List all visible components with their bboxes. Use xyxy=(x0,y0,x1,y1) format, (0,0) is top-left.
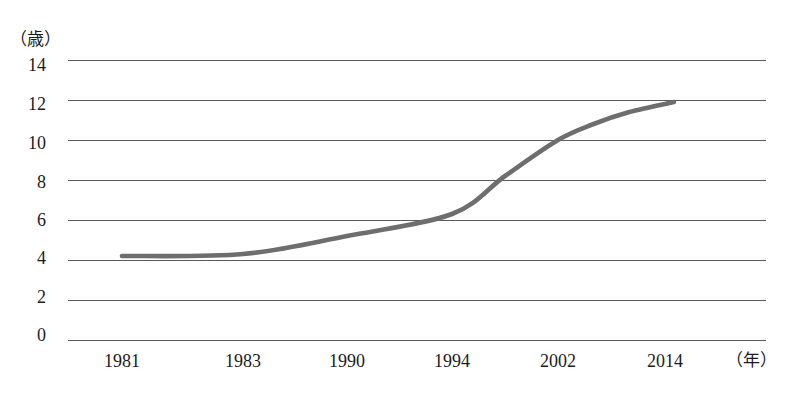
plot-area xyxy=(68,60,766,340)
y-tick-label-2: 2 xyxy=(0,288,46,306)
line-chart: （歳） （年） 14 12 10 8 6 4 2 0 1981 1983 199… xyxy=(0,0,800,409)
x-tick-label-1981: 1981 xyxy=(87,352,157,370)
y-tick-label-14: 14 xyxy=(0,56,46,74)
series-line-age xyxy=(122,102,674,256)
y-tick-label-8: 8 xyxy=(0,173,46,191)
x-tick-label-1983: 1983 xyxy=(208,352,278,370)
y-tick-label-12: 12 xyxy=(0,95,46,113)
plot-svg xyxy=(68,60,766,340)
y-tick-label-4: 4 xyxy=(0,249,46,267)
y-axis-unit-label: （歳） xyxy=(10,31,61,48)
x-tick-label-2014: 2014 xyxy=(630,352,700,370)
y-tick-label-0: 0 xyxy=(0,326,46,344)
y-tick-label-6: 6 xyxy=(0,211,46,229)
x-axis-unit-label: （年） xyxy=(726,352,777,369)
x-tick-label-1994: 1994 xyxy=(417,352,487,370)
y-tick-label-10: 10 xyxy=(0,134,46,152)
x-tick-label-1990: 1990 xyxy=(312,352,382,370)
x-tick-label-2002: 2002 xyxy=(523,352,593,370)
